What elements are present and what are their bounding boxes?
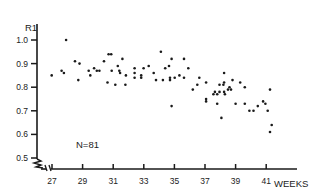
data-point: [264, 102, 267, 105]
data-points: [50, 39, 273, 134]
data-point: [218, 84, 221, 87]
x-axis: 2729313335373941: [41, 164, 297, 186]
data-point: [142, 67, 145, 70]
x-tick-label: 41: [261, 176, 271, 186]
axis-break-icon: [45, 165, 47, 171]
y-tick-label: 0.7: [16, 106, 28, 116]
x-tick-label: 31: [108, 176, 118, 186]
data-point: [196, 84, 199, 87]
y-tick-label: 0.9: [16, 59, 28, 69]
data-point: [244, 86, 247, 89]
data-point: [173, 77, 176, 80]
data-point: [234, 102, 237, 105]
data-point: [106, 81, 109, 84]
data-point: [257, 105, 260, 108]
data-point: [65, 39, 68, 42]
y-tick-label: 0.8: [16, 82, 28, 92]
data-point: [50, 74, 53, 77]
data-point: [103, 60, 106, 63]
x-tick-label: 27: [47, 176, 57, 186]
data-point: [178, 74, 181, 77]
data-point: [205, 81, 208, 84]
data-point: [93, 67, 96, 70]
data-point: [78, 62, 81, 65]
data-point: [117, 65, 120, 68]
data-point: [107, 53, 110, 56]
data-point: [87, 69, 90, 72]
data-point: [96, 69, 99, 72]
data-point: [125, 74, 128, 77]
data-point: [133, 72, 136, 75]
data-point: [183, 77, 186, 80]
x-tick-label: 37: [200, 176, 210, 186]
data-point: [119, 72, 122, 75]
data-point: [266, 110, 269, 113]
data-point: [147, 65, 150, 68]
data-point: [205, 98, 208, 101]
x-axis-label: WEEKS: [274, 178, 308, 189]
data-point: [230, 88, 233, 91]
x-tick-label: 35: [170, 176, 180, 186]
data-point: [168, 65, 171, 68]
data-point: [77, 79, 80, 82]
data-point: [218, 91, 221, 94]
data-point: [223, 91, 226, 94]
data-point: [98, 69, 101, 72]
data-point: [133, 67, 136, 70]
axis-break-icon: [49, 165, 51, 171]
data-point: [160, 51, 163, 54]
data-point: [170, 105, 173, 108]
data-point: [164, 67, 167, 70]
data-point: [63, 72, 66, 75]
data-point: [270, 124, 273, 127]
y-axis: 0.50.60.70.80.91.0: [16, 24, 51, 171]
data-point: [133, 77, 136, 80]
data-point: [124, 84, 127, 87]
data-point: [169, 77, 172, 80]
data-point: [169, 79, 172, 82]
data-point: [244, 102, 247, 105]
axis-break-icon: [34, 159, 43, 168]
data-point: [192, 88, 195, 91]
data-point: [224, 93, 227, 96]
data-point: [223, 81, 226, 84]
data-point: [223, 72, 226, 75]
data-point: [216, 93, 219, 96]
data-point: [252, 110, 255, 113]
data-point: [231, 79, 234, 82]
data-point: [187, 67, 190, 70]
data-point: [248, 110, 251, 113]
x-tick-label: 33: [139, 176, 149, 186]
data-point: [222, 84, 225, 87]
scatter-chart: 0.50.60.70.80.91.0 2729313335373941 R1 W…: [0, 0, 321, 194]
sample-size-annotation: N=81: [76, 139, 99, 150]
data-point: [121, 58, 124, 61]
data-point: [212, 93, 215, 96]
data-point: [216, 102, 219, 105]
y-tick-label: 0.6: [16, 129, 28, 139]
y-tick-label: 0.5: [16, 153, 28, 163]
data-point: [60, 69, 63, 72]
data-point: [239, 81, 242, 84]
data-point: [170, 58, 173, 61]
data-point: [152, 72, 155, 75]
data-point: [162, 79, 165, 82]
x-tick-label: 39: [231, 176, 241, 186]
data-point: [205, 100, 208, 103]
data-point: [228, 86, 231, 89]
data-point: [198, 77, 201, 80]
data-point: [110, 69, 113, 72]
data-point: [214, 91, 217, 94]
data-point: [140, 77, 143, 80]
x-tick-label: 29: [78, 176, 88, 186]
data-point: [262, 100, 265, 103]
data-point: [269, 88, 272, 91]
data-point: [220, 117, 223, 120]
data-point: [269, 131, 272, 134]
data-point: [89, 74, 92, 77]
y-tick-label: 1.0: [16, 35, 28, 45]
data-point: [74, 60, 77, 63]
data-point: [114, 84, 117, 87]
data-point: [118, 69, 121, 72]
data-point: [227, 88, 230, 91]
